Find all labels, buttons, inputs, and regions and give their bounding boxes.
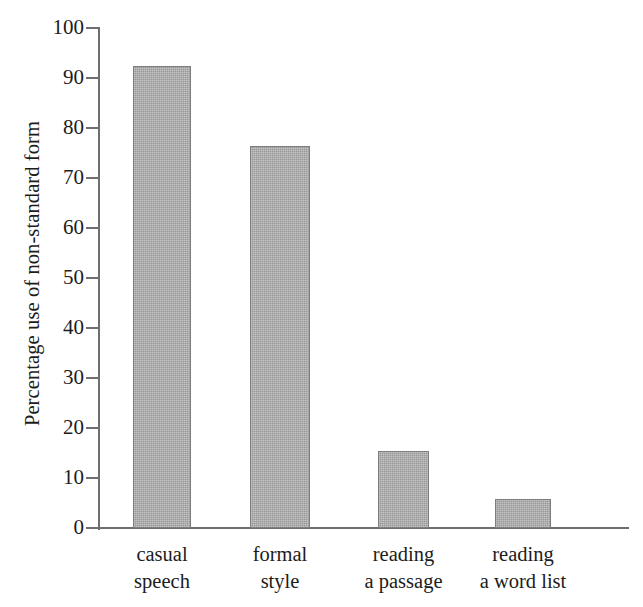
y-axis-tick <box>86 377 99 379</box>
y-axis-tick <box>86 527 99 529</box>
y-axis-tick-label: 10 <box>22 467 84 488</box>
y-axis-tick <box>86 127 99 129</box>
y-axis-tick-label: 50 <box>22 267 84 288</box>
plot-area: Percentage use of non-standard form 0102… <box>0 0 643 607</box>
y-axis-tick-label: 100 <box>22 17 84 38</box>
y-axis-tick <box>86 227 99 229</box>
y-axis-tick <box>86 427 99 429</box>
bar-chart: Percentage use of non-standard form 0102… <box>0 0 643 607</box>
y-axis-tick-label: 20 <box>22 417 84 438</box>
y-axis-tick-label: 70 <box>22 167 84 188</box>
bar <box>378 451 429 529</box>
y-axis-tick-label: 60 <box>22 217 84 238</box>
x-axis-category-label: readinga word list <box>433 541 613 595</box>
y-axis-tick <box>86 77 99 79</box>
bar <box>495 499 551 528</box>
bar <box>133 66 191 529</box>
bar <box>250 146 310 529</box>
y-axis-tick-label: 80 <box>22 117 84 138</box>
y-axis-tick-label: 40 <box>22 317 84 338</box>
y-axis-tick <box>86 177 99 179</box>
y-axis-tick <box>86 477 99 479</box>
y-axis-tick-label: 0 <box>22 517 84 538</box>
y-axis-tick <box>86 327 99 329</box>
category-label-line-1: reading <box>433 541 613 568</box>
y-axis-tick <box>86 27 99 29</box>
y-axis-tick-label: 30 <box>22 367 84 388</box>
y-axis-tick-label: 90 <box>22 67 84 88</box>
category-label-line-2: a word list <box>433 568 613 595</box>
y-axis-tick <box>86 277 99 279</box>
